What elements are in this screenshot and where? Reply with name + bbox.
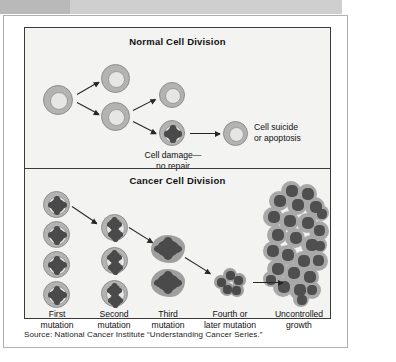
arrow-parent-to-upper bbox=[77, 82, 99, 95]
nucleus-damaged bbox=[167, 128, 179, 140]
label-first-mutation-line2: mutation bbox=[41, 320, 74, 330]
label-fourth-mutation-line1: Fourth or bbox=[213, 309, 248, 319]
arrow-damaged-to-apoptosis bbox=[190, 133, 220, 134]
cell-division-figure: Normal Cell Division bbox=[24, 27, 331, 319]
cancer-cell-s1-3 bbox=[43, 251, 70, 278]
label-third-mutation-line1: Third bbox=[158, 309, 178, 319]
normal-cell-parent bbox=[43, 85, 73, 115]
nucleus bbox=[110, 295, 121, 306]
nucleus bbox=[51, 229, 64, 242]
label-first-mutation-line1: First bbox=[49, 309, 66, 319]
cancer-cell-s2-3 bbox=[101, 280, 128, 307]
cancer-cell-s2-2 bbox=[101, 247, 128, 274]
cancer-stage-uncontrolled-growth bbox=[263, 181, 329, 303]
label-uncontrolled-growth-line2: growth bbox=[286, 320, 312, 330]
nucleus bbox=[51, 289, 64, 302]
nucleus bbox=[110, 229, 121, 240]
label-stage-uncontrolled-growth: Uncontrolled growth bbox=[268, 309, 330, 331]
panel-cancer-cell-division: Cancer Cell Division bbox=[25, 168, 330, 318]
nucleus bbox=[157, 274, 179, 291]
top-banner-strip bbox=[0, 0, 396, 14]
panel-normal-cell-division: Normal Cell Division bbox=[25, 28, 330, 168]
label-stage-first-mutation: First mutation bbox=[28, 309, 86, 331]
banner-segment-end bbox=[342, 0, 396, 14]
arrow-parent-to-lower bbox=[77, 102, 100, 115]
cancer-cell-s3-2 bbox=[151, 269, 185, 297]
normal-cell-healthy bbox=[159, 82, 185, 108]
arrow-lower-to-damaged bbox=[133, 121, 157, 134]
cancer-cell-s1-1 bbox=[43, 191, 70, 218]
arrow-stage1-to-stage2 bbox=[72, 206, 97, 224]
label-uncontrolled-growth-line1: Uncontrolled bbox=[275, 309, 323, 319]
label-apoptosis-line2: or apoptosis bbox=[254, 133, 301, 143]
nucleus bbox=[110, 262, 121, 273]
cancer-division-diagram: First mutation Second mutation Third mut… bbox=[25, 169, 330, 318]
arrow-stage2-to-stage3 bbox=[129, 227, 153, 243]
label-cell-damage-line1: Cell damage— bbox=[145, 150, 202, 160]
cancer-cell-s2-1 bbox=[101, 214, 128, 241]
label-fourth-mutation-line2: later mutation bbox=[204, 320, 256, 330]
cancer-cell-s1-4 bbox=[43, 281, 70, 308]
label-apoptosis-line1: Cell suicide bbox=[254, 122, 298, 132]
cancer-cell-s1-2 bbox=[43, 221, 70, 248]
normal-cell-daughter-lower bbox=[101, 102, 130, 131]
arrow-stage3-to-stage4 bbox=[185, 257, 211, 274]
label-third-mutation-line2: mutation bbox=[152, 320, 185, 330]
normal-cell-apoptotic bbox=[223, 121, 248, 146]
label-stage-fourth-mutation: Fourth or later mutation bbox=[191, 309, 269, 331]
label-stage-third-mutation: Third mutation bbox=[141, 309, 195, 331]
arrow-stage4-to-tumor bbox=[253, 282, 283, 283]
nucleus bbox=[51, 259, 64, 272]
label-second-mutation-line2: mutation bbox=[98, 320, 131, 330]
banner-segment-dark bbox=[0, 0, 70, 14]
normal-division-diagram: Cell damage— no repair Cell suicide or a… bbox=[25, 28, 330, 168]
normal-cell-damaged bbox=[159, 120, 185, 146]
nucleus bbox=[157, 240, 179, 257]
figure-card: Normal Cell Division bbox=[3, 15, 348, 348]
banner-segment-light bbox=[70, 0, 342, 14]
cancer-stage-fourth-mutation bbox=[214, 268, 248, 298]
label-stage-second-mutation: Second mutation bbox=[85, 309, 143, 331]
normal-cell-daughter-upper bbox=[101, 64, 130, 93]
arrow-lower-to-healthy bbox=[133, 99, 156, 111]
source-citation: Source: National Cancer Institute “Under… bbox=[24, 330, 334, 339]
cancer-cell-s3-1 bbox=[151, 235, 185, 263]
label-apoptosis: Cell suicide or apoptosis bbox=[254, 122, 334, 144]
nucleus bbox=[51, 199, 64, 212]
label-second-mutation-line1: Second bbox=[99, 309, 128, 319]
